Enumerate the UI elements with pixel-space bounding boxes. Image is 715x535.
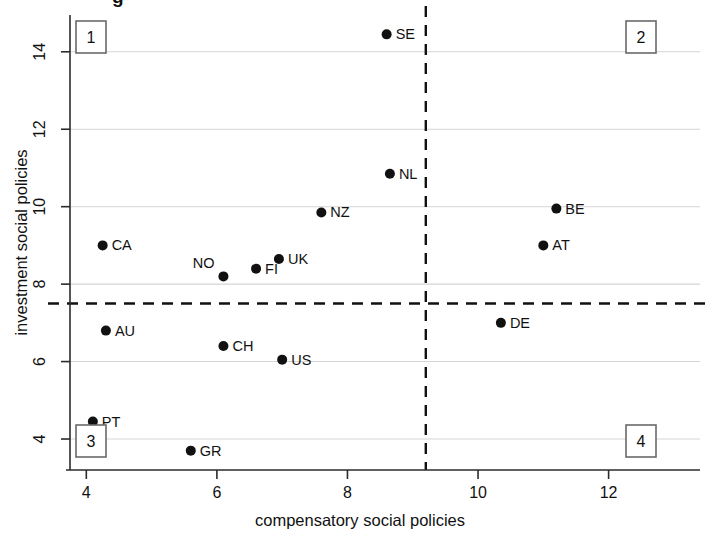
data-point-FI: FI bbox=[251, 261, 278, 277]
point-label-US: US bbox=[291, 352, 311, 368]
data-point-US: US bbox=[277, 352, 311, 368]
y-tick-label-4: 4 bbox=[32, 434, 49, 443]
data-point-NL: NL bbox=[385, 166, 418, 182]
scatter-plot-svg: 4681012144681012 SENLBENZATCAUKFINODEAUC… bbox=[0, 0, 715, 535]
point-marker-SE bbox=[382, 29, 392, 39]
point-label-CH: CH bbox=[232, 338, 253, 354]
point-marker-CA bbox=[98, 240, 108, 250]
point-marker-BE bbox=[551, 204, 561, 214]
point-label-SE: SE bbox=[396, 26, 416, 42]
x-axis-title: compensatory social policies bbox=[255, 511, 465, 529]
quadrant-number-1: 1 bbox=[87, 29, 96, 46]
point-marker-AT bbox=[538, 240, 548, 250]
point-label-GR: GR bbox=[200, 443, 222, 459]
data-point-CH: CH bbox=[218, 338, 253, 354]
x-tick-label-12: 12 bbox=[600, 484, 618, 501]
point-marker-DE bbox=[496, 318, 506, 328]
quadrant-number-4: 4 bbox=[637, 433, 646, 450]
data-point-CA: CA bbox=[98, 237, 132, 253]
x-tick-label-6: 6 bbox=[212, 484, 221, 501]
point-label-UK: UK bbox=[288, 251, 308, 267]
point-label-NL: NL bbox=[399, 166, 418, 182]
gridlines-group bbox=[70, 52, 700, 439]
point-marker-NZ bbox=[316, 207, 326, 217]
point-label-AT: AT bbox=[552, 237, 570, 253]
x-tick-label-4: 4 bbox=[82, 484, 91, 501]
point-marker-FI bbox=[251, 264, 261, 274]
data-point-GR: GR bbox=[186, 443, 222, 459]
quadrant-number-3: 3 bbox=[87, 433, 96, 450]
quadrant-number-2: 2 bbox=[637, 29, 646, 46]
data-point-BE: BE bbox=[551, 201, 585, 217]
data-point-DE: DE bbox=[496, 315, 530, 331]
point-marker-NL bbox=[385, 169, 395, 179]
point-label-FI: FI bbox=[265, 261, 278, 277]
data-point-AU: AU bbox=[101, 323, 135, 339]
point-label-DE: DE bbox=[510, 315, 530, 331]
point-label-NZ: NZ bbox=[330, 204, 349, 220]
data-point-NO: NO bbox=[193, 255, 229, 281]
data-points-group: SENLBENZATCAUKFINODEAUCHUSPTGR bbox=[88, 26, 585, 458]
y-tick-label-12: 12 bbox=[32, 120, 49, 138]
tick-labels-group: 4681012144681012 bbox=[32, 43, 618, 501]
quadrant-label-3: 3 bbox=[76, 425, 106, 457]
y-tick-label-6: 6 bbox=[32, 357, 49, 366]
point-marker-AU bbox=[101, 326, 111, 336]
point-label-BE: BE bbox=[565, 201, 585, 217]
y-axis-title: investment social policies bbox=[12, 149, 30, 335]
point-label-NO: NO bbox=[193, 255, 215, 271]
quadrant-label-4: 4 bbox=[626, 425, 656, 457]
x-tick-label-10: 10 bbox=[469, 484, 487, 501]
reference-lines-group bbox=[48, 6, 712, 470]
y-tick-label-8: 8 bbox=[32, 280, 49, 289]
quadrant-label-2: 2 bbox=[626, 21, 656, 53]
y-tick-label-10: 10 bbox=[32, 198, 49, 216]
tick-marks-group bbox=[61, 52, 609, 479]
x-tick-label-8: 8 bbox=[343, 484, 352, 501]
data-point-SE: SE bbox=[382, 26, 416, 42]
point-label-CA: CA bbox=[112, 237, 132, 253]
point-marker-NO bbox=[218, 271, 228, 281]
y-tick-label-14: 14 bbox=[32, 43, 49, 61]
point-marker-US bbox=[277, 355, 287, 365]
scatter-plot-figure: 4681012144681012 SENLBENZATCAUKFINODEAUC… bbox=[0, 0, 715, 535]
axes-group bbox=[66, 15, 700, 470]
data-point-AT: AT bbox=[538, 237, 570, 253]
point-marker-CH bbox=[218, 341, 228, 351]
data-point-UK: UK bbox=[274, 251, 308, 267]
point-marker-GR bbox=[186, 446, 196, 456]
quadrant-label-1: 1 bbox=[76, 21, 106, 53]
point-label-AU: AU bbox=[115, 323, 135, 339]
